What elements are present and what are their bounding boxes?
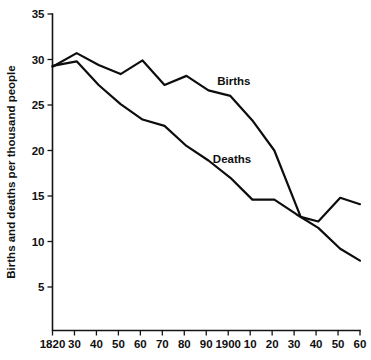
series-label-deaths: Deaths [213,153,251,165]
axis-lines [53,14,361,331]
line-chart: Births and deaths per thousand people 51… [0,0,371,360]
y-axis-title-text: Births and deaths per thousand people [5,65,17,278]
y-tick-label: 15 [32,190,45,202]
x-tick-label: 10 [244,338,257,350]
chart-axes [53,14,361,331]
x-tick-label: 30 [68,338,81,350]
y-tick-label: 30 [32,54,45,66]
x-tick-label: 30 [288,338,301,350]
x-axis-ticks: 1820304050607080901900102030405060 [40,331,367,350]
y-tick-label: 20 [32,145,45,157]
data-series [53,53,361,260]
y-tick-label: 35 [32,8,45,20]
y-axis-title: Births and deaths per thousand people [5,65,17,278]
chart-container: Births and deaths per thousand people 51… [0,0,371,360]
series-label-births: Births [217,75,250,87]
x-tick-label: 60 [134,338,147,350]
x-tick-label: 90 [200,338,213,350]
y-axis-ticks: 5101520253035 [32,8,53,293]
x-tick-label: 50 [332,338,345,350]
x-tick-label: 20 [266,338,279,350]
series-line-deaths [53,61,361,260]
y-tick-label: 25 [32,99,45,111]
x-tick-label: 80 [178,338,191,350]
x-tick-label: 1900 [215,338,241,350]
x-tick-label: 40 [90,338,103,350]
x-tick-label: 70 [156,338,169,350]
y-tick-label: 10 [32,236,45,248]
x-tick-label: 60 [354,338,367,350]
y-tick-label: 5 [38,281,45,293]
x-tick-label: 40 [310,338,323,350]
x-tick-label: 1820 [40,338,66,350]
series-line-births [53,53,361,221]
series-annotations: BirthsDeaths [213,75,251,165]
x-tick-label: 50 [112,338,125,350]
